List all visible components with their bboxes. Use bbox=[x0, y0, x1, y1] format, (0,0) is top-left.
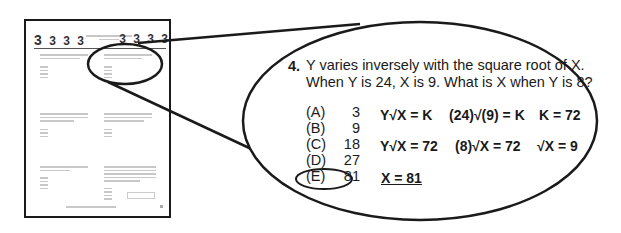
thumbnail-footer bbox=[66, 206, 116, 208]
header-numbers-right: 3 3 3 3 bbox=[119, 32, 170, 46]
choice-e-selected: (E)81 bbox=[306, 168, 360, 184]
choice-a: (A)3 bbox=[306, 104, 360, 120]
thumbnail-question-2 bbox=[40, 113, 88, 139]
thumbnail-question-1 bbox=[40, 54, 88, 80]
question-number: 4. bbox=[288, 58, 300, 74]
work-step-1b: (24)√(9) = K bbox=[449, 107, 525, 123]
thumbnail-question-5 bbox=[104, 113, 152, 139]
choice-b: (B)9 bbox=[306, 120, 360, 136]
choice-c: (C)18 bbox=[306, 136, 360, 152]
thumbnail-go-on-box bbox=[127, 192, 155, 199]
final-answer: X = 81 bbox=[381, 170, 422, 186]
work-step-2c: √X = 9 bbox=[537, 138, 578, 154]
question-text-line-2: When Y is 24, X is 9. What is X when Y i… bbox=[306, 74, 593, 90]
thumbnail-page-number bbox=[160, 205, 163, 208]
choice-d: (D)27 bbox=[306, 152, 360, 168]
work-step-2a: Y√X = 72 bbox=[380, 138, 438, 154]
worksheet-page-thumbnail: 3 3 3 3 3 3 3 3 bbox=[24, 19, 171, 218]
question-text-line-1: Y varies inversely with the square root … bbox=[306, 57, 585, 73]
work-step-1c: K = 72 bbox=[539, 107, 581, 123]
thumbnail-question-3 bbox=[40, 166, 88, 191]
work-step-1a: Y√X = K bbox=[380, 107, 432, 123]
callout-line-top bbox=[138, 24, 360, 43]
thumbnail-question-4 bbox=[104, 54, 152, 80]
header-numbers-left: 3 3 3 3 bbox=[34, 32, 86, 48]
work-step-2b: (8)√X = 72 bbox=[455, 138, 521, 154]
thumbnail-header: 3 3 3 3 3 3 3 3 bbox=[34, 34, 166, 49]
